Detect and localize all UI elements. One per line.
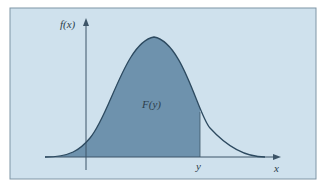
- y-axis-label: f(x): [60, 18, 76, 31]
- cutoff-label: y: [195, 160, 201, 172]
- x-axis-label: x: [273, 162, 279, 174]
- cdf-figure: f(x) x y F(y): [0, 0, 325, 188]
- area-label: F(y): [141, 98, 161, 111]
